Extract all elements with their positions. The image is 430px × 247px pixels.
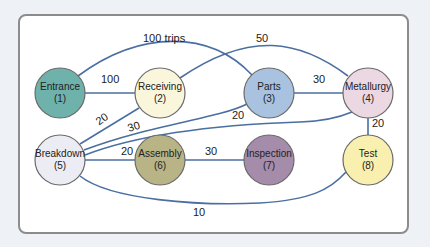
flow-diagram: 100 trips 100 50 30 20 30 20 20 20 30 10… [0,0,430,247]
node-name: Breakdown [35,148,85,159]
edge-label-breakdown-test: 10 [193,206,205,218]
node-number: (3) [263,93,275,104]
node-number: (6) [154,160,166,171]
node-name: Receiving [138,81,182,92]
node-name: Inspection [246,148,292,159]
node-receiving: Receiving (2) [135,68,185,118]
node-assembly: Assembly (6) [135,135,185,185]
node-number: (8) [362,160,374,171]
node-name: Entrance [40,81,80,92]
node-name: Test [359,148,378,159]
edge-label-breakdown-assembly: 20 [121,145,133,157]
edge-label-entrance-parts: 100 trips [143,32,186,44]
node-parts: Parts (3) [244,68,294,118]
edge-label-breakdown-receiving: 20 [93,110,110,127]
node-number: (2) [154,93,166,104]
node-name: Parts [257,81,280,92]
node-number: (1) [54,93,66,104]
edge-label-breakdown-metallurgy: 20 [232,109,244,121]
node-entrance: Entrance (1) [35,68,85,118]
node-metallurgy: Metallurgy (4) [343,68,393,118]
edge-label-assembly-inspection: 30 [205,145,217,157]
edge-label-breakdown-parts: 30 [126,119,141,134]
node-breakdown: Breakdown (5) [35,135,85,185]
node-name: Assembly [138,148,181,159]
edge-label-parts-metallurgy: 30 [313,73,325,85]
node-inspection: Inspection (7) [244,135,294,185]
edge-label-entrance-receiving: 100 [101,73,119,85]
node-number: (4) [362,93,374,104]
edge-breakdown-test [80,172,346,204]
node-test: Test (8) [343,135,393,185]
edge-label-metallurgy-test: 20 [372,117,384,129]
node-number: (7) [263,160,275,171]
node-number: (5) [54,160,66,171]
node-name: Metallurgy [345,81,391,92]
edge-label-receiving-metallurgy: 50 [256,32,268,44]
